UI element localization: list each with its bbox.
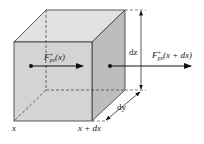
flux-out-label: F+px(x + dx) (151, 50, 192, 61)
dy-label: dy (117, 102, 127, 112)
volume-element-diagram: dz dy F+px(x) F+px(x + dx) x x + dx (0, 0, 204, 144)
flux-in-label: F+px(x) (43, 52, 65, 63)
x-left-label: x (11, 123, 16, 133)
dz-label: dz (129, 47, 138, 57)
x-right-label: x + dx (77, 123, 101, 133)
